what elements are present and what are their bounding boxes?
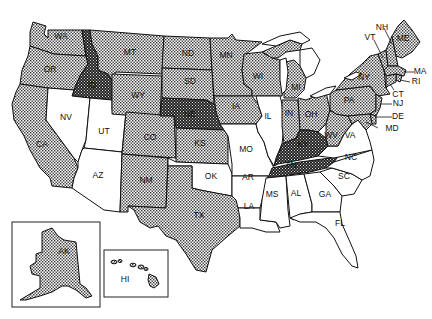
label-tn: TN: [285, 160, 296, 170]
label-nc: NC: [345, 152, 357, 162]
state-hi[interactable]: [111, 260, 159, 289]
state-ri[interactable]: [396, 74, 402, 82]
label-mo: MO: [239, 144, 253, 154]
label-sc: SC: [338, 171, 350, 181]
label-nd: ND: [182, 48, 194, 58]
label-hi: HI: [121, 274, 130, 284]
label-oh: OH: [305, 109, 318, 119]
label-md: MD: [385, 123, 398, 133]
label-al: AL: [291, 188, 302, 198]
label-ri: RI: [412, 76, 421, 86]
label-az: AZ: [93, 170, 104, 180]
label-ar: AR: [242, 172, 254, 182]
label-ny: NY: [358, 72, 370, 82]
label-tx: TX: [194, 210, 205, 220]
label-ma: MA: [414, 66, 427, 76]
label-ok: OK: [205, 171, 218, 181]
label-ky: KY: [297, 139, 309, 149]
state-ak[interactable]: [20, 228, 92, 300]
label-ms: MS: [266, 189, 279, 199]
label-co: CO: [144, 132, 157, 142]
label-nv: NV: [60, 112, 72, 122]
label-vt: VT: [365, 32, 376, 42]
label-mt: MT: [124, 47, 136, 57]
label-in: IN: [285, 108, 294, 118]
label-va: VA: [345, 130, 356, 140]
label-wy: WY: [131, 90, 145, 100]
us-choropleth-map: WA OR CA ID NV UT AZ MT WY CO NM ND SD N…: [0, 0, 432, 319]
label-ut: UT: [98, 126, 109, 136]
label-wa: WA: [54, 31, 68, 41]
label-mi: MI: [291, 82, 300, 92]
label-pa: PA: [344, 95, 355, 105]
label-ne: NE: [184, 109, 196, 119]
label-or: OR: [44, 64, 57, 74]
label-ca: CA: [36, 139, 48, 149]
hawaii-inset-box: [104, 250, 168, 297]
label-il: IL: [264, 111, 271, 121]
label-nj: NJ: [393, 98, 403, 108]
label-ga: GA: [319, 189, 332, 199]
state-fl[interactable]: [290, 212, 358, 268]
label-nm: NM: [139, 175, 152, 185]
label-de: DE: [392, 111, 404, 121]
map-svg: WA OR CA ID NV UT AZ MT WY CO NM ND SD N…: [0, 0, 432, 319]
label-me: ME: [397, 33, 410, 43]
label-fl: FL: [335, 218, 345, 228]
callout-ri: [400, 80, 410, 82]
label-nh: NH: [376, 22, 388, 32]
label-mn: MN: [219, 50, 232, 60]
label-ia: IA: [232, 101, 240, 111]
label-ks: KS: [194, 138, 206, 148]
label-wv: WV: [324, 130, 338, 140]
label-wi: WI: [253, 71, 263, 81]
label-id: ID: [88, 80, 97, 90]
label-ak: AK: [58, 246, 70, 256]
label-sd: SD: [184, 76, 196, 86]
state-ms[interactable]: [260, 176, 290, 228]
label-la: LA: [244, 201, 255, 211]
